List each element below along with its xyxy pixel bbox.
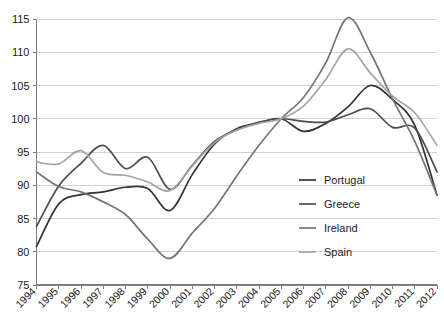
x-tick-label: 2001: [169, 285, 194, 310]
series-line-ireland: [37, 18, 438, 259]
x-tick-label: 2004: [235, 285, 260, 310]
x-tick-label: 2000: [146, 285, 171, 310]
y-axis-tick-labels: 7580859095100105110115: [11, 13, 29, 291]
x-tick-label: 1996: [57, 285, 82, 310]
x-tick-label: 2010: [369, 285, 394, 310]
legend-label-ireland: Ireland: [324, 222, 358, 234]
y-tick-label: 95: [17, 146, 29, 158]
legend-label-spain: Spain: [324, 246, 352, 258]
chart-legend: PortugalGreeceIrelandSpain: [299, 174, 365, 258]
x-tick-label: 2005: [258, 285, 283, 310]
x-tick-label: 1998: [102, 285, 127, 310]
y-tick-label: 100: [11, 113, 29, 125]
y-tick-label: 110: [12, 46, 30, 58]
x-tick-label: 2003: [213, 285, 238, 310]
y-tick-label: 85: [17, 213, 29, 225]
x-axis-tick-labels: 1994199519961997199819992000200120022003…: [13, 285, 439, 310]
y-tick-label: 90: [17, 179, 29, 191]
x-tick-label: 2007: [302, 285, 327, 310]
x-tick-label: 2012: [413, 285, 438, 310]
legend-label-greece: Greece: [324, 198, 360, 210]
axes: [33, 19, 438, 289]
x-tick-label: 1997: [80, 285, 105, 310]
x-tick-label: 2011: [392, 285, 417, 310]
y-tick-label: 105: [11, 80, 29, 92]
gridlines: [37, 19, 438, 285]
legend-label-portugal: Portugal: [324, 174, 365, 186]
y-tick-label: 80: [17, 246, 29, 258]
data-series: [37, 18, 438, 259]
x-tick-label: 2008: [324, 285, 349, 310]
x-tick-label: 1999: [124, 285, 149, 310]
x-tick-label: 2002: [191, 285, 216, 310]
line-chart: 7580859095100105110115 19941995199619971…: [0, 0, 444, 335]
series-line-spain: [37, 49, 438, 191]
x-tick-label: 2006: [280, 285, 305, 310]
x-tick-label: 1995: [35, 285, 60, 310]
x-tick-label: 2009: [347, 285, 372, 310]
y-tick-label: 115: [12, 13, 30, 25]
chart-canvas: 7580859095100105110115 19941995199619971…: [0, 0, 444, 335]
